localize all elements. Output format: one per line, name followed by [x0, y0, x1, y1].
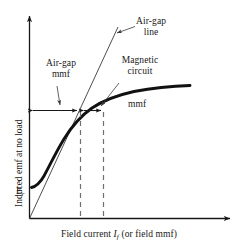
magnetic-circuit-annotation: Magnetic circuit [112, 55, 168, 77]
airgap-line-annotation-line2: line [136, 27, 166, 38]
magnetisation-curve [32, 86, 191, 188]
airgap-line-annotation-line1: Air-gap [136, 16, 166, 27]
air-gap-line [30, 27, 119, 219]
magnetic-circuit-leader [101, 83, 119, 106]
chart-canvas [0, 0, 251, 250]
x-axis-label-prefix: Field current [61, 229, 114, 239]
magnetic-circuit-annotation-line2: circuit [112, 66, 168, 77]
er-subscript: r [22, 190, 25, 198]
airgap-mmf-annotation: Air-gap mmf [35, 58, 87, 80]
airgap-mmf-annotation-line1: Air-gap [35, 58, 87, 69]
airgap-line-leader [117, 27, 135, 34]
y-axis-origin-label: Er [16, 186, 25, 198]
airgap-mmf-leader [57, 86, 60, 105]
magnetic-circuit-annotation-line1: Magnetic [112, 55, 168, 66]
x-axis-label: Field current If (or field mmf) [61, 229, 177, 243]
x-axis-label-suffix: (or field mmf) [119, 229, 177, 239]
magnetisation-curve-figure: Air-gap line Air-gap mmf Magnetic circui… [0, 0, 251, 250]
airgap-mmf-annotation-line2: mmf [35, 69, 87, 80]
mmf-annotation: mmf [128, 99, 146, 110]
airgap-line-annotation: Air-gap line [136, 16, 166, 38]
